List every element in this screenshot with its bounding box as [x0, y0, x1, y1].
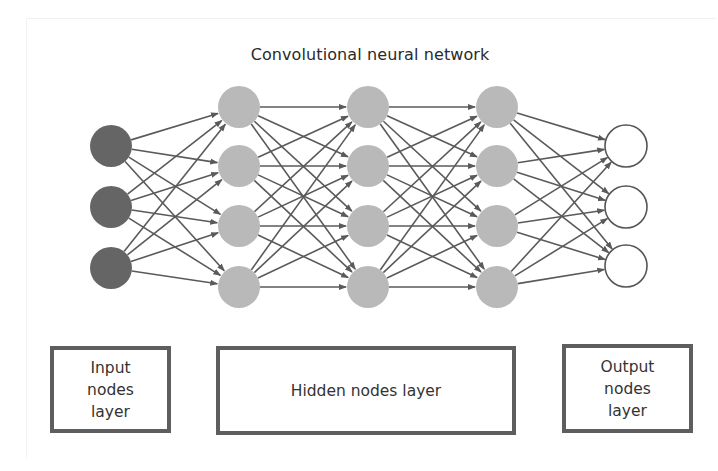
hidden-2-node [347, 86, 389, 128]
hidden-2-node [347, 145, 389, 187]
hidden-1-node [218, 266, 260, 308]
nodes [90, 86, 647, 308]
hidden-1-node [218, 86, 260, 128]
hidden-layer-label: Hidden nodes layer [291, 380, 442, 402]
connection-arrow [517, 232, 605, 259]
connection-arrow [131, 233, 218, 262]
input-node [90, 247, 132, 289]
connection-arrow [514, 179, 609, 253]
output-layer-label-box: Output nodes layer [562, 344, 693, 433]
connection-arrow [518, 270, 605, 284]
input-node [90, 186, 132, 228]
input-layer-label: Input nodes layer [87, 357, 134, 423]
connection-arrow [124, 124, 225, 251]
hidden-1-node [218, 145, 260, 187]
input-layer-label-box: Input nodes layer [50, 346, 171, 433]
input-node [90, 125, 132, 167]
output-node [605, 245, 647, 287]
output-layer-label: Output nodes layer [601, 356, 655, 422]
edges [124, 107, 612, 287]
connection-arrow [517, 113, 605, 140]
hidden-2-node [347, 266, 389, 308]
hidden-3-node [476, 86, 518, 128]
hidden-2-node [347, 205, 389, 247]
output-node [605, 125, 647, 167]
hidden-3-node [476, 266, 518, 308]
output-node [605, 186, 647, 228]
connection-arrow [129, 157, 221, 214]
connection-arrow [128, 121, 222, 195]
connection-arrow [131, 113, 218, 139]
connection-arrow [515, 219, 607, 276]
connection-arrow [132, 271, 217, 284]
connection-arrow [127, 180, 221, 255]
connection-arrow [518, 149, 605, 162]
connection-arrow [515, 158, 607, 215]
hidden-3-node [476, 205, 518, 247]
connection-arrow [511, 162, 611, 271]
hidden-1-node [218, 205, 260, 247]
connection-arrow [131, 173, 218, 201]
hidden-3-node [476, 145, 518, 187]
hidden-layer-label-box: Hidden nodes layer [216, 346, 516, 435]
